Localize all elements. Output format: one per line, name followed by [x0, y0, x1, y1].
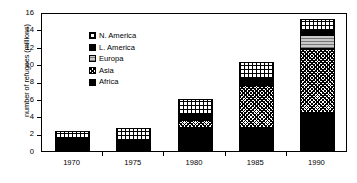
legend-label: Africa [99, 78, 118, 86]
bar-segment-1980-n-america [178, 99, 213, 116]
bar-segment-1990-africa [300, 113, 335, 151]
y-tick-label: 6 [18, 96, 34, 104]
bar-segment-1970-africa [55, 139, 90, 151]
x-tick-label-1970: 1970 [47, 158, 97, 167]
legend-label: Europa [99, 55, 124, 63]
bar-segment-1975-n-america [116, 128, 151, 140]
x-tick-label-1975: 1975 [108, 158, 158, 167]
x-tick-label-1990: 1990 [291, 158, 341, 167]
bar-segment-1980-asia [178, 120, 213, 129]
bar-segment-1985-asia [239, 85, 274, 128]
legend-item-africa: Africa [89, 76, 136, 88]
y-tick-label: 16 [18, 9, 34, 17]
legend-item-n-america: N. America [89, 30, 136, 42]
legend-item-asia: Asia [89, 65, 136, 77]
bar-segment-1985-l-america [239, 79, 274, 85]
legend-label: L. America [99, 44, 135, 52]
bar-segment-1985-africa [239, 128, 274, 151]
legend-item-europa: Europa [89, 53, 136, 65]
y-tick-label: 2 [18, 130, 34, 138]
bar-segment-1980-europa [178, 118, 213, 120]
x-tick-label-1980: 1980 [169, 158, 219, 167]
legend-swatch-icon [89, 32, 96, 39]
x-tick-mark [163, 152, 164, 156]
legend-swatch-icon [89, 55, 96, 62]
bar-segment-1980-l-america [178, 115, 213, 118]
bar-segment-1985-n-america [239, 62, 274, 79]
legend-item-l-america: L. America [89, 42, 136, 54]
bar-segment-1980-africa [178, 128, 213, 151]
bar-1980 [178, 12, 213, 151]
bar-segment-1990-n-america [300, 19, 335, 31]
x-tick-mark [286, 152, 287, 156]
bar-1990 [300, 12, 335, 151]
y-tick-label: 10 [18, 61, 34, 69]
bar-segment-1970-n-america [55, 131, 90, 139]
legend-label: Asia [99, 67, 114, 75]
bar-1970 [55, 12, 90, 151]
legend-label: N. America [99, 32, 136, 40]
plot-area: N. AmericaL. AmericaEuropaAsiaAfrica [41, 13, 347, 152]
y-tick-label: 8 [18, 78, 34, 86]
x-tick-label-1985: 1985 [230, 158, 280, 167]
bar-segment-1990-europa [300, 35, 335, 49]
legend-swatch-icon [89, 79, 96, 86]
y-tick-label: 14 [18, 26, 34, 34]
bar-segment-1990-asia [300, 49, 335, 113]
legend: N. AmericaL. AmericaEuropaAsiaAfrica [89, 30, 136, 88]
refugees-stacked-bar-chart: number of refugees (millions) 0246810121… [0, 0, 357, 183]
y-tick-label: 0 [18, 148, 34, 156]
y-tick-label: 4 [18, 113, 34, 121]
x-tick-mark [102, 152, 103, 156]
y-tick-label: 12 [18, 44, 34, 52]
legend-swatch-icon [89, 44, 96, 51]
bar-segment-1990-l-america [300, 31, 335, 34]
legend-swatch-icon [89, 67, 96, 74]
bar-1985 [239, 12, 274, 151]
bar-segment-1975-africa [116, 141, 151, 151]
x-tick-mark [225, 152, 226, 156]
